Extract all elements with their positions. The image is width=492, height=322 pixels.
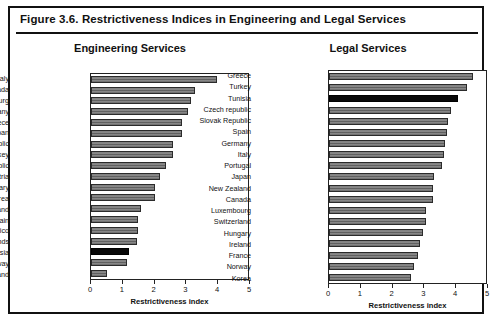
bar-greece xyxy=(329,73,473,80)
title-divider xyxy=(16,32,478,34)
category-label-spain: Spain xyxy=(188,128,254,135)
plot-area-legal xyxy=(328,70,487,284)
x-tick-label-2: 2 xyxy=(389,289,393,298)
bar-portugal xyxy=(329,162,442,169)
bar-row xyxy=(329,240,486,247)
panel-legal-services: Legal Services GreeceTurkeyTunisiaCzech … xyxy=(258,38,480,306)
bar-new-zealand xyxy=(329,185,433,192)
category-label-korea: Korea xyxy=(188,275,254,282)
bar-rows-legal xyxy=(329,71,486,283)
x-tick-label-1: 1 xyxy=(120,285,124,294)
category-labels-engineering: ItalyCanadaLuxembourgGermanyGreeceJapanS… xyxy=(0,73,12,280)
bar-austria xyxy=(91,173,160,180)
category-label-finland: Finland xyxy=(0,271,12,278)
category-label-spain: Spain xyxy=(0,217,12,224)
category-label-norway: Norway xyxy=(188,263,254,270)
panel-title-legal: Legal Services xyxy=(268,42,468,54)
x-tick-label-4: 4 xyxy=(453,289,457,298)
x-tick-label-3: 3 xyxy=(183,285,187,294)
x-tick xyxy=(360,284,361,288)
category-label-netherlands: Netherlands xyxy=(0,238,12,245)
category-label-tunisia: Tunisia xyxy=(0,249,12,256)
category-label-greece: Greece xyxy=(188,72,254,79)
bar-row xyxy=(329,140,486,147)
x-tick-label-0: 0 xyxy=(88,285,92,294)
x-tick xyxy=(185,280,186,284)
category-label-germany: Germany xyxy=(0,108,12,115)
bar-slovak-republic xyxy=(329,118,448,125)
bar-row xyxy=(329,207,486,214)
category-label-turkey: Turkey xyxy=(0,151,12,158)
category-label-luxembourg: Luxembourg xyxy=(188,207,254,214)
category-label-portugal: Portugal xyxy=(188,162,254,169)
x-tick-label-5: 5 xyxy=(485,289,489,298)
category-label-hungary: Hungary xyxy=(0,184,12,191)
category-label-switzerland: Switzerland xyxy=(188,218,254,225)
category-labels-legal: GreeceTurkeyTunisiaCzech republicSlovak … xyxy=(188,70,254,284)
bar-tunisia xyxy=(329,95,458,102)
x-axis-title-legal: Restrictiveness index xyxy=(328,301,487,310)
bar-row xyxy=(329,185,486,192)
bar-new-zealand xyxy=(91,205,141,212)
bar-luxembourg xyxy=(91,97,191,104)
bar-spain xyxy=(329,129,447,136)
x-tick-label-2: 2 xyxy=(151,285,155,294)
x-tick-label-3: 3 xyxy=(421,289,425,298)
x-tick-label-1: 1 xyxy=(358,289,362,298)
bar-row xyxy=(329,73,486,80)
bar-row xyxy=(329,107,486,114)
bar-row xyxy=(329,118,486,125)
category-label-japan: Japan xyxy=(188,173,254,180)
category-label-ireland: Ireland xyxy=(188,241,254,248)
bar-row xyxy=(329,162,486,169)
x-tick xyxy=(90,280,91,284)
bar-turkey xyxy=(329,84,467,91)
category-label-japan: Japan xyxy=(0,129,12,136)
bar-row xyxy=(329,218,486,225)
x-tick xyxy=(328,284,329,288)
category-label-czech-republic: Czech republic xyxy=(0,162,12,169)
bar-italy xyxy=(329,151,444,158)
category-label-austria: Austria xyxy=(0,173,12,180)
category-label-italy: Italy xyxy=(188,151,254,158)
bar-france xyxy=(329,252,418,259)
bar-norway xyxy=(329,263,414,270)
bar-korea xyxy=(91,194,155,201)
figure-frame: Figure 3.6. Restrictiveness Indices in E… xyxy=(8,6,484,314)
x-tick xyxy=(487,284,488,288)
bar-switzerland xyxy=(329,218,426,225)
bar-czech-republic xyxy=(91,162,166,169)
category-label-italy: Italy xyxy=(0,75,12,82)
bar-row xyxy=(329,151,486,158)
category-label-korea: Korea xyxy=(0,195,12,202)
x-tick-label-5: 5 xyxy=(247,285,251,294)
bar-korea xyxy=(329,274,411,281)
category-label-canada: Canada xyxy=(0,86,12,93)
category-label-new-zealand: New Zealand xyxy=(188,185,254,192)
bar-row xyxy=(329,252,486,259)
bar-canada xyxy=(329,196,433,203)
bar-mexico xyxy=(91,227,138,234)
bar-finland xyxy=(91,270,107,277)
bar-spain xyxy=(91,216,138,223)
bar-canada xyxy=(91,87,195,94)
x-tick-label-4: 4 xyxy=(215,285,219,294)
bar-tunisia xyxy=(91,248,129,255)
bar-slovak-republic xyxy=(91,141,173,148)
bar-row xyxy=(329,196,486,203)
bar-row xyxy=(329,84,486,91)
x-tick xyxy=(122,280,123,284)
bar-norway xyxy=(91,259,127,266)
category-label-hungary: Hungary xyxy=(188,230,254,237)
x-tick-label-0: 0 xyxy=(326,289,330,298)
bar-japan xyxy=(329,173,434,180)
bar-ireland xyxy=(329,240,420,247)
bar-germany xyxy=(91,108,188,115)
bar-japan xyxy=(91,130,182,137)
category-label-france: France xyxy=(188,252,254,259)
bar-hungary xyxy=(91,184,155,191)
category-label-czech-republic: Czech republic xyxy=(188,106,254,113)
category-label-norway: Norway xyxy=(0,260,12,267)
category-label-slovak-republic: Slovak Republic xyxy=(188,117,254,124)
x-tick xyxy=(423,284,424,288)
